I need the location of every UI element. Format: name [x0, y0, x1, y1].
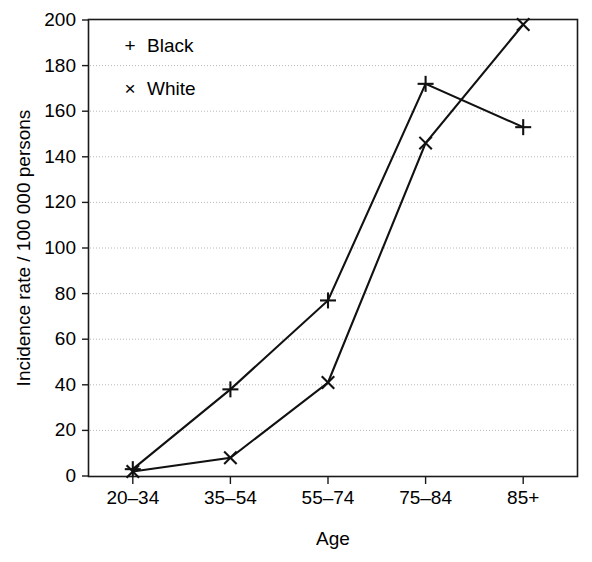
legend-marker-white-icon: × — [124, 78, 135, 99]
legend-marker-black-icon: + — [124, 35, 135, 56]
legend-item-black: +Black — [124, 35, 194, 56]
y-axis-tick-label: 140 — [44, 146, 76, 167]
legend-item-white: ×White — [124, 78, 195, 99]
incidence-rate-by-age-line-chart: 020406080100120140160180200 20–3435–5455… — [0, 0, 592, 562]
x-axis-tick-label: 55–74 — [302, 487, 355, 508]
y-axis-tick-label: 20 — [55, 419, 76, 440]
legend-label: White — [147, 78, 196, 99]
y-axis-tick-label: 100 — [44, 237, 76, 258]
y-axis-tick-label: 120 — [44, 191, 76, 212]
x-axis-tick-label: 75–84 — [399, 487, 452, 508]
y-axis-tick-label: 40 — [55, 374, 76, 395]
y-axis-tick-label: 200 — [44, 9, 76, 30]
y-axis-tick-label: 80 — [55, 283, 76, 304]
y-axis-tick-label: 60 — [55, 328, 76, 349]
legend-label: Black — [147, 35, 194, 56]
x-axis-tick-label: 20–34 — [106, 487, 159, 508]
chart-figure: 020406080100120140160180200 20–3435–5455… — [0, 0, 592, 562]
x-axis-title: Age — [316, 528, 350, 549]
y-axis-tick-label: 0 — [65, 465, 76, 486]
y-axis-tick-label: 160 — [44, 100, 76, 121]
x-axis-tick-label: 35–54 — [204, 487, 257, 508]
y-axis-tick-label: 180 — [44, 55, 76, 76]
y-axis-title: Incidence rate / 100 000 persons — [13, 110, 34, 387]
x-axis-tick-label: 85+ — [507, 487, 539, 508]
